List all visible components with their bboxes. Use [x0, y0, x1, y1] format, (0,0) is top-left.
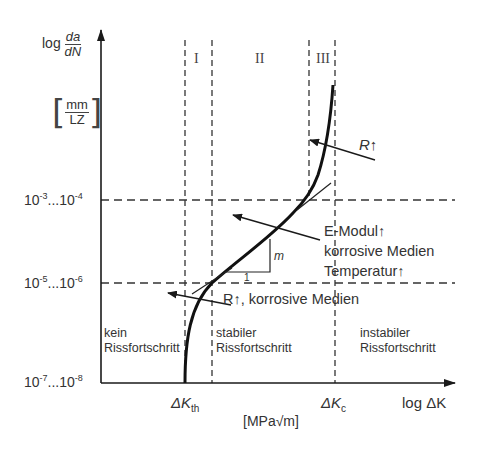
bracket-left: [ [52, 92, 65, 132]
korrosive-label: korrosive Medien [324, 241, 434, 261]
slope-m-label: m [274, 250, 284, 262]
y-label-fraction: da dN [65, 30, 82, 59]
y-label-num: da [65, 30, 81, 45]
r-up-annotation: R↑ [359, 137, 377, 152]
y-unit-num: mm [65, 98, 89, 113]
y-unit-fraction: mmLZ [65, 98, 89, 127]
emodul-arrow [233, 215, 320, 240]
y-unit-den: LZ [70, 113, 85, 127]
y-label-log: log [42, 35, 61, 51]
r-korrosive-annotation: R↑, korrosive Medien [223, 292, 359, 307]
bracket-right: ] [89, 92, 102, 132]
x-axis-label: log ΔK [402, 395, 446, 410]
region-II-label: II [255, 52, 264, 66]
emodul-label: E-Modul↑ [324, 221, 434, 241]
slope-1-label: 1 [244, 273, 250, 283]
influence-annotations: E-Modul↑ korrosive Medien Temperatur↑ [324, 221, 434, 281]
y-label-den: dN [65, 45, 82, 59]
region-III-label: III [316, 52, 330, 66]
y-axis-label: log da dN [42, 30, 81, 59]
y-axis-unit: [mmLZ] [52, 95, 102, 129]
x-tick-dk-c: ΔKc [321, 395, 346, 414]
region-I-description: kein Rissfortschritt [104, 326, 180, 356]
x-axis-unit: [MPa√m] [243, 414, 299, 428]
x-tick-dk-th: ΔKth [171, 395, 199, 414]
region-III-description: instabiler Rissfortschritt [360, 326, 436, 356]
y-tick-3: 10-7...10-8 [24, 374, 83, 389]
temperatur-label: Temperatur↑ [324, 261, 434, 281]
region-I-label: I [194, 52, 199, 66]
region-II-description: stabiler Rissfortschritt [216, 326, 292, 356]
y-tick-1: 10-3...10-4 [24, 192, 83, 207]
y-tick-2: 10-5...10-6 [24, 275, 83, 290]
